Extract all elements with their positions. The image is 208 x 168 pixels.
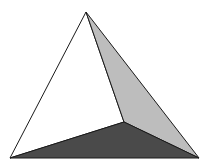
tetrahedron-diagram (0, 0, 208, 168)
tetrahedron-svg (0, 0, 208, 168)
